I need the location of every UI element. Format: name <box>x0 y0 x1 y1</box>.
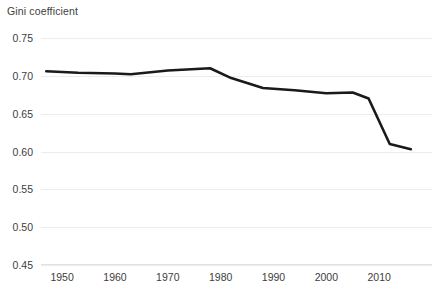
y-axis-title: Gini coefficient <box>7 5 78 17</box>
series-line-gini <box>41 38 432 265</box>
x-axis-tick-label: 1980 <box>209 271 232 283</box>
y-axis-tick-label: 0.75 <box>13 32 33 44</box>
plot-area: 0.750.700.650.600.550.500.45 19501960197… <box>41 38 432 265</box>
gridline-y <box>41 265 432 266</box>
y-axis-tick-label: 0.50 <box>13 221 33 233</box>
y-axis-tick-label: 0.70 <box>13 70 33 82</box>
x-axis-tick-label: 2010 <box>367 271 390 283</box>
y-axis-tick-label: 0.45 <box>13 259 33 271</box>
x-axis-tick-label: 1990 <box>262 271 285 283</box>
x-axis-tick-label: 1950 <box>50 271 73 283</box>
y-axis-tick-label: 0.55 <box>13 183 33 195</box>
x-axis-tick-label: 1970 <box>156 271 179 283</box>
y-axis-tick-label: 0.60 <box>13 146 33 158</box>
data-line <box>46 68 411 149</box>
x-axis-tick-label: 1960 <box>103 271 126 283</box>
chart-container: Gini coefficient 0.750.700.650.600.550.5… <box>0 0 442 296</box>
x-axis-tick-label: 2000 <box>315 271 338 283</box>
y-axis-tick-label: 0.65 <box>13 108 33 120</box>
